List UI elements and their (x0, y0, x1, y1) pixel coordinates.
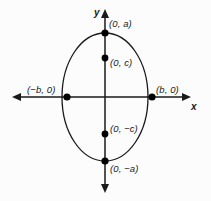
x-axis-left-arrow-icon (12, 93, 21, 101)
label-right-vertex: (b, 0) (156, 85, 179, 95)
label-bottom-vertex: (0, −a) (110, 164, 138, 174)
label-left-vertex: (−b, 0) (27, 85, 55, 95)
point-bottom-vertex (101, 157, 108, 164)
x-axis-label: x (191, 102, 197, 112)
ellipse-figure: (0, a) (0, c) (−b, 0) (b, 0) (0, −c) (0,… (0, 0, 211, 201)
point-top-vertex (101, 29, 108, 36)
point-upper-focus (102, 55, 109, 62)
point-right-vertex (148, 93, 155, 100)
x-axis-right-arrow-icon (182, 93, 191, 101)
point-lower-focus (102, 131, 109, 138)
label-upper-focus: (0, c) (110, 58, 132, 68)
y-axis-label: y (94, 8, 100, 18)
figure-canvas (0, 0, 211, 201)
label-top-vertex: (0, a) (109, 19, 132, 29)
label-lower-focus: (0, −c) (110, 124, 138, 134)
y-axis-up-arrow-icon (101, 9, 109, 18)
y-axis-down-arrow-icon (101, 184, 109, 193)
point-left-vertex (63, 93, 70, 100)
